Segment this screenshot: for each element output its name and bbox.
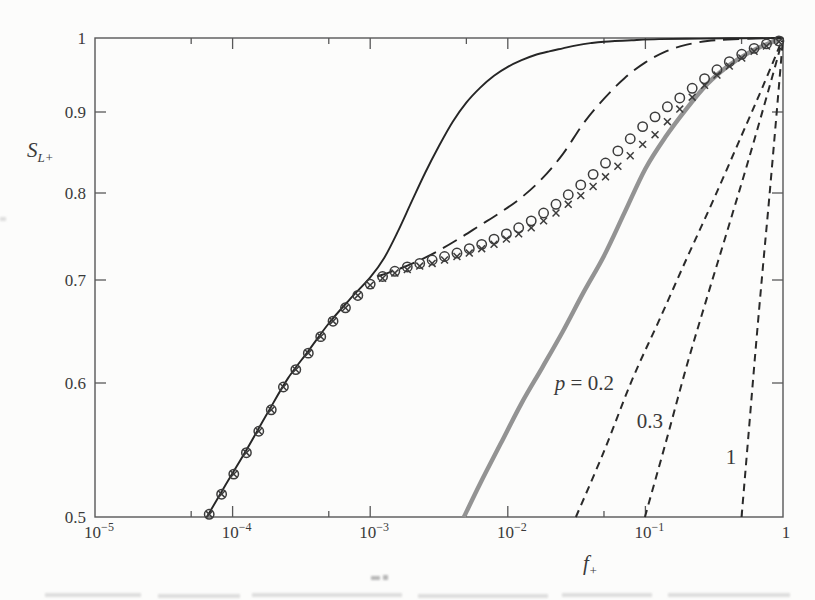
scan-artifact-caption-strip [668,593,790,597]
circle-marker [551,200,560,209]
series-cross-markers [206,38,783,517]
scan-artifact-speck [0,217,6,221]
x-axis-label: f+ [583,551,598,578]
circle-marker [687,84,696,93]
curve-annotation: 1 [726,445,737,469]
circle-marker [576,180,585,189]
y-axis-label: SL+ [27,138,54,165]
scan-artifact-speck [371,576,380,580]
circle-marker [527,216,536,225]
x-tick-label: 10−4 [222,520,252,542]
y-tick-label: 0.9 [65,103,86,122]
circle-marker [502,229,511,238]
series-long-dash-model [377,38,783,277]
circle-marker [564,190,573,199]
series-power-law-p-1 [742,38,783,517]
circle-marker [638,122,647,131]
series-solid-equilibrium [207,38,783,517]
y-tick-label: 0.7 [65,271,87,290]
x-tick-label: 10−2 [497,520,527,542]
circle-marker [514,223,523,232]
x-tick-label: 10−3 [359,520,389,542]
scanned-figure-page: 10−510−410−310−210−1110.90.80.70.60.5SL+… [0,0,815,600]
circle-marker [613,146,622,155]
x-tick-label: 10−5 [84,520,114,542]
scan-artifact-caption-strip [45,593,141,597]
circle-marker [663,102,672,111]
circle-marker [675,93,684,102]
scan-artifact-caption-strip [562,593,652,597]
scan-artifact-caption-strip [158,594,240,598]
curve-annotation: 0.3 [637,409,663,433]
circle-marker [626,134,635,143]
circle-marker [489,234,498,243]
circle-marker [700,74,709,83]
y-tick-label: 0.8 [65,184,86,203]
scan-artifact-speck [383,575,388,580]
curve-annotation: p = 0.2 [553,371,614,395]
y-tick-label: 0.5 [65,508,86,527]
scan-artifact-caption-strip [252,593,402,597]
x-tick-label: 1 [782,523,791,542]
chart-canvas: 10−510−410−310−210−1110.90.80.70.60.5SL+… [0,0,815,600]
x-tick-label: 10−1 [635,520,665,542]
circle-marker [588,170,597,179]
y-tick-label: 1 [78,29,87,48]
series-circle-markers [205,36,784,519]
circle-marker [601,158,610,167]
circle-marker [650,112,659,121]
y-tick-label: 0.6 [65,374,86,393]
scan-artifact-caption-strip [418,594,548,598]
circle-marker [539,208,548,217]
